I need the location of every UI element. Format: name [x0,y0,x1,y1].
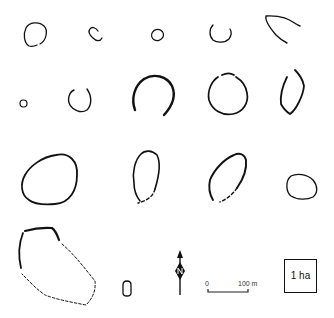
enclosure-15-solid-top [25,228,59,240]
enclosure-12-solid [133,151,159,201]
enclosure-5 [266,16,300,43]
scale-bar [208,289,248,292]
enclosure-10 [281,70,304,114]
enclosure-16 [123,281,131,296]
enclosure-13-dashed [220,188,237,202]
enclosure-1 [24,23,46,47]
enclosure-6 [20,100,27,107]
scale-end-label: 100 m [238,280,257,287]
hectare-label: 1 ha [285,270,316,281]
enclosure-2 [89,28,102,41]
north-arrow-icon [175,250,185,295]
scale-start-label: 0 [205,280,209,287]
hectare-reference-box: 1 ha [284,259,317,293]
enclosure-11 [22,154,77,204]
enclosure-plans-figure: 0 100 m 1 ha [0,0,334,318]
enclosure-14 [287,174,317,199]
enclosure-15-solid-left [19,233,23,268]
enclosure-9 [209,74,248,115]
enclosure-15-dashed [22,244,95,305]
enclosure-3 [150,28,164,42]
enclosure-4 [210,25,231,42]
enclosure-13-solid [209,154,246,200]
enclosure-8 [133,76,174,115]
enclosure-7 [69,89,91,112]
